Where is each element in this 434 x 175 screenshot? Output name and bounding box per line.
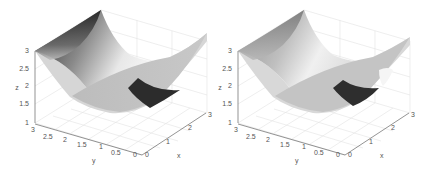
svg-text:2.5: 2.5 [222,65,232,72]
svg-text:3: 3 [234,126,238,133]
y-axis-label: y [92,157,96,165]
surface-right [238,10,410,113]
svg-text:1.5: 1.5 [77,141,87,148]
svg-text:0: 0 [145,151,149,158]
surface-plot-right: 3 2.5 2 1.5 1 z 3 2.5 2 1.5 1 0.5 0 y 0 … [203,0,420,175]
svg-text:0.5: 0.5 [111,149,121,156]
plot-canvas-right: 3 2.5 2 1.5 1 z 3 2.5 2 1.5 1 0.5 0 y 0 … [203,0,434,175]
svg-text:1: 1 [302,143,306,150]
svg-text:2: 2 [391,124,395,131]
svg-text:1: 1 [99,143,103,150]
surface-left [35,10,207,113]
plot-canvas-left: 3 2.5 2 1.5 1 z 3 2.5 2 1.5 1 0.5 0 y 0 … [0,0,217,175]
svg-text:0: 0 [336,151,340,158]
svg-text:1: 1 [228,119,232,126]
x-ticks-left: 0 1 2 3 x [145,111,212,159]
svg-text:0: 0 [133,151,137,158]
svg-text:1.5: 1.5 [280,141,290,148]
svg-text:1: 1 [25,119,29,126]
svg-text:0: 0 [348,151,352,158]
svg-text:2.5: 2.5 [246,133,256,140]
svg-text:1: 1 [369,138,373,145]
svg-text:2: 2 [266,136,270,143]
x-axis-label: x [177,152,181,159]
svg-text:1.5: 1.5 [222,100,232,107]
svg-text:2: 2 [63,136,67,143]
svg-text:2: 2 [25,82,29,89]
z-ticks-right: 3 2.5 2 1.5 1 z [218,47,232,126]
svg-text:2: 2 [228,82,232,89]
svg-text:3: 3 [31,126,35,133]
svg-text:0.5: 0.5 [314,149,324,156]
svg-text:3: 3 [411,111,415,118]
svg-text:2.5: 2.5 [43,133,53,140]
y-ticks-left: 3 2.5 2 1.5 1 0.5 0 y [31,126,137,165]
surface-plot-left: 3 2.5 2 1.5 1 z 3 2.5 2 1.5 1 0.5 0 y 0 … [0,0,217,175]
x-ticks-right: 0 1 2 3 x [348,111,415,159]
svg-text:2: 2 [188,124,192,131]
svg-text:2.5: 2.5 [19,65,29,72]
y-ticks-right: 3 2.5 2 1.5 1 0.5 0 y [234,126,340,165]
z-axis-label: z [218,84,222,91]
svg-text:3: 3 [25,47,29,54]
svg-text:1.5: 1.5 [19,100,29,107]
y-axis-label: y [295,157,299,165]
svg-text:1: 1 [166,138,170,145]
x-axis-label: x [380,152,384,159]
z-ticks-left: 3 2.5 2 1.5 1 z [15,47,29,126]
svg-text:3: 3 [228,47,232,54]
z-axis-label: z [15,84,19,91]
